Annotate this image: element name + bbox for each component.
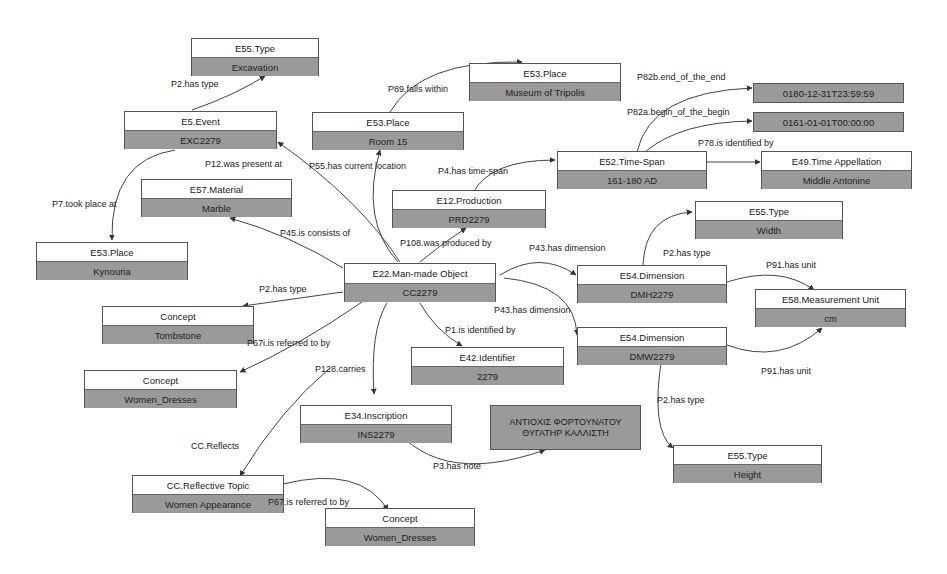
edge-label-p43-w: P43.has dimension xyxy=(494,305,571,315)
edge-label-p2-height: P2.has type xyxy=(657,395,705,405)
edge-label-p2-object: P2.has type xyxy=(259,284,307,294)
edge-label-p2-event: P2.has type xyxy=(171,79,219,89)
edge-p91-h xyxy=(727,275,814,290)
node-value: CC2279 xyxy=(345,284,495,303)
node-value: Marble xyxy=(142,199,291,217)
node-value: 0180-12-31T23:59:59 xyxy=(754,84,903,102)
node-value: Museum of Tripolis xyxy=(470,83,620,101)
node-reflective-topic[interactable]: CC.Reflective Topic Women Appearance xyxy=(132,475,284,513)
node-type-width[interactable]: E55.Type Width xyxy=(695,201,843,239)
edge-label-p67i: P67i.is referred to by xyxy=(247,338,330,348)
node-value: 161-180 AD xyxy=(558,171,706,189)
edge-label-p43-h: P43.has dimension xyxy=(529,243,606,253)
node-value: Height xyxy=(674,465,821,483)
edge-label-p4: P4.has time-span xyxy=(438,166,508,176)
node-place-room[interactable]: E53.Place Room 15 xyxy=(312,112,464,150)
node-timespan[interactable]: E52.Time-Span 161-180 AD xyxy=(557,151,707,189)
node-production[interactable]: E12.Production PRD2279 xyxy=(392,190,546,228)
node-measurement-unit[interactable]: E58.Measurement Unit cm xyxy=(755,289,906,327)
edge-p67i xyxy=(240,302,362,372)
node-class: E53.Place xyxy=(37,243,187,262)
node-man-made-object[interactable]: E22.Man-made Object CC2279 xyxy=(344,263,496,302)
node-class: Concept xyxy=(103,307,253,326)
node-class: E5.Event xyxy=(125,112,276,131)
node-value: EXC2279 xyxy=(125,131,276,149)
node-material[interactable]: E57.Material Marble xyxy=(141,179,292,217)
edge-p45 xyxy=(230,218,343,268)
edge-label-p78: P78.is identified by xyxy=(698,138,774,148)
node-value: Width xyxy=(696,221,842,239)
node-inscription-note[interactable]: ΑΝΤΙΟΧΙΣ ΦΟΡΤΟΥΝΑΤΟΥ ΘΥΓΑΤΗΡ ΚΑΛΛΙΣΤΗ xyxy=(490,405,641,450)
node-value: Women Appearance xyxy=(133,495,283,513)
node-value: 2279 xyxy=(412,367,563,385)
edge-label-p108: P108.was produced by xyxy=(400,238,492,248)
edge-label-p12: P12.was present at xyxy=(205,159,282,169)
node-value: cm xyxy=(756,309,905,327)
edge-label-p55: P55.has current location xyxy=(309,161,406,171)
node-value: 0161-01-01T00:00:00 xyxy=(754,113,903,131)
edge-p91-w xyxy=(727,328,822,352)
edge-label-p89: P89.falls within xyxy=(388,84,448,94)
node-class: Concept xyxy=(85,371,236,390)
node-value: Women_Dresses xyxy=(85,390,236,408)
node-dimension-w[interactable]: E54.Dimension DMW2279 xyxy=(577,327,727,365)
edge-label-cc-reflects: CC.Reflects xyxy=(191,441,239,451)
edge-label-p1: P1.is identified by xyxy=(445,325,516,335)
node-concept-tombstone[interactable]: Concept Tombstone xyxy=(102,306,254,344)
edge-p128 xyxy=(373,303,387,394)
edge-label-p91-w: P91.has unit xyxy=(761,366,811,376)
node-concept-women-dresses-2[interactable]: Concept Women_Dresses xyxy=(325,508,475,546)
node-class: E55.Type xyxy=(674,446,821,465)
node-concept-women-dresses-1[interactable]: Concept Women_Dresses xyxy=(84,370,237,408)
node-time-appellation[interactable]: E49.Time Appellation Middle Antonine xyxy=(761,151,912,189)
node-place-kynouria[interactable]: E53.Place Kynouria xyxy=(36,242,188,280)
node-class: E53.Place xyxy=(470,64,620,83)
node-class: E53.Place xyxy=(313,113,463,132)
node-class: E49.Time Appellation xyxy=(762,152,911,171)
node-class: E12.Production xyxy=(393,191,545,210)
node-type-height[interactable]: E55.Type Height xyxy=(673,445,822,483)
node-event[interactable]: E5.Event EXC2279 xyxy=(124,111,277,149)
node-value: PRD2279 xyxy=(393,210,545,228)
node-class: E22.Man-made Object xyxy=(345,264,495,284)
node-type-excavation[interactable]: E55.Type Excavation xyxy=(191,38,319,76)
node-value: Excavation xyxy=(192,58,318,76)
node-dimension-h[interactable]: E54.Dimension DMH2279 xyxy=(577,265,727,303)
node-identifier[interactable]: E42.Identifier 2279 xyxy=(411,347,564,385)
edge-label-p82a: P82a.begin_of_the_begin xyxy=(627,107,730,117)
edge-label-p45: P45.is consists of xyxy=(280,228,350,238)
node-class: E42.Identifier xyxy=(412,348,563,367)
node-class: E55.Type xyxy=(696,202,842,221)
node-value: Kynouria xyxy=(37,262,187,280)
node-begin-value[interactable]: 0161-01-01T00:00:00 xyxy=(753,112,904,132)
edge-label-p3: P3.has note xyxy=(433,461,481,471)
node-class: E55.Type xyxy=(192,39,318,58)
edge-p4 xyxy=(473,160,555,193)
node-value: INS2279 xyxy=(301,425,451,443)
node-class: E58.Measurement Unit xyxy=(756,290,905,309)
node-place-museum[interactable]: E53.Place Museum of Tripolis xyxy=(469,63,621,101)
node-class: E34.Inscription xyxy=(301,406,451,425)
node-value: Room 15 xyxy=(313,132,463,150)
node-value: Women_Dresses xyxy=(326,528,474,546)
node-value: Tombstone xyxy=(103,326,253,344)
edge-p2-object xyxy=(243,292,343,306)
edge-label-p7: P7.took place at xyxy=(52,199,117,209)
edge-label-p82b: P82b.end_of_the_end xyxy=(637,72,726,82)
node-class: CC.Reflective Topic xyxy=(133,476,283,495)
node-end-value[interactable]: 0180-12-31T23:59:59 xyxy=(753,83,904,103)
node-class: E57.Material xyxy=(142,180,291,199)
edge-label-p67-topic: P67.is referred to by xyxy=(268,497,349,507)
node-value: DMW2279 xyxy=(578,347,726,365)
node-class: E52.Time-Span xyxy=(558,152,706,171)
edge-p43-h xyxy=(500,263,576,276)
edge-label-p91-h: P91.has unit xyxy=(766,260,816,270)
node-class: E54.Dimension xyxy=(578,328,726,347)
node-class: Concept xyxy=(326,509,474,528)
edge-p12 xyxy=(278,142,400,262)
node-class: E54.Dimension xyxy=(578,266,726,285)
node-inscription[interactable]: E34.Inscription INS2279 xyxy=(300,405,452,443)
edge-label-p2-width: P2.has type xyxy=(663,248,711,258)
edge-label-p128: P128.carries xyxy=(315,364,366,374)
node-value: Middle Antonine xyxy=(762,171,911,189)
